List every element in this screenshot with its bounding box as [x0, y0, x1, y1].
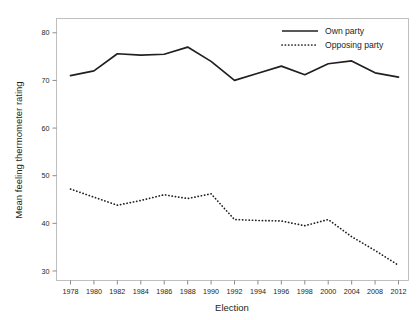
x-tick-label: 1994 [250, 287, 266, 296]
x-tick-label: 1996 [273, 287, 289, 296]
x-axis-title: Election [215, 302, 249, 313]
x-tick-label: 1988 [180, 287, 196, 296]
x-tick-label: 2000 [320, 287, 336, 296]
x-tick-label: 1984 [133, 287, 149, 296]
y-tick-label: 60 [42, 124, 50, 133]
y-axis-title: Mean feeling thermometer rating [13, 81, 24, 218]
x-tick-label: 1978 [63, 287, 79, 296]
y-tick-label: 30 [42, 267, 50, 276]
y-tick-label: 70 [42, 76, 50, 85]
x-axis-tick-labels: 1978198019821984198619881990199219941996… [63, 287, 407, 296]
y-tick-label: 50 [42, 171, 50, 180]
y-tick-label: 80 [42, 28, 50, 37]
x-tick-label: 2004 [344, 287, 360, 296]
chart-figure: 304050607080 197819801982198419861988199… [0, 0, 419, 320]
x-tick-label: 1990 [203, 287, 219, 296]
y-tick-label: 40 [42, 219, 50, 228]
legend-label-opposing-party: Opposing party [325, 40, 384, 50]
x-tick-label: 2008 [367, 287, 383, 296]
x-tick-label: 2012 [391, 287, 407, 296]
x-tick-label: 1980 [86, 287, 102, 296]
x-tick-label: 1986 [156, 287, 172, 296]
legend-label-own-party: Own party [325, 26, 365, 36]
x-tick-label: 1998 [297, 287, 313, 296]
x-tick-label: 1982 [109, 287, 125, 296]
x-tick-label: 1992 [227, 287, 243, 296]
